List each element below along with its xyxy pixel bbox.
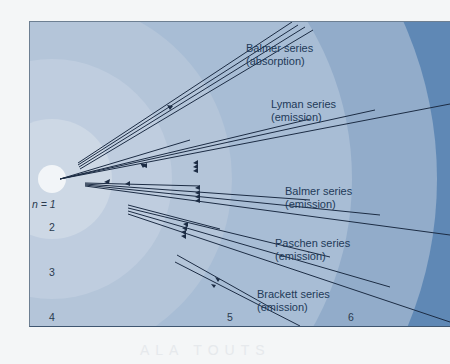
watermark: ALA TOUTS [140, 342, 271, 358]
level-label-6: 6 [348, 311, 354, 323]
series-name: Lyman series [271, 98, 336, 111]
series-type: (emission) [257, 301, 330, 314]
series-name: Paschen series [275, 237, 350, 250]
label-paschen-emission: Paschen series (emission) [275, 237, 350, 263]
series-name: Balmer series [285, 185, 352, 198]
series-name: Brackett series [257, 288, 330, 301]
series-type: (emission) [275, 250, 350, 263]
level-label-4: 4 [49, 311, 55, 323]
label-brackett-emission: Brackett series (emission) [257, 288, 330, 314]
label-balmer-emission: Balmer series (emission) [285, 185, 352, 211]
series-type: (emission) [285, 198, 352, 211]
series-name: Balmer series [246, 42, 313, 55]
series-type: (emission) [271, 111, 336, 124]
series-type: (absorption) [246, 55, 313, 68]
level-label-2: 2 [49, 221, 55, 233]
level-label-5: 5 [227, 311, 233, 323]
level-label-1: n = 1 [32, 198, 56, 210]
label-balmer-absorption: Balmer series (absorption) [246, 42, 313, 68]
level-label-3: 3 [49, 266, 55, 278]
energy-rings-and-transitions [30, 22, 450, 326]
label-lyman-emission: Lyman series (emission) [271, 98, 336, 124]
energy-level-diagram: Balmer series (absorption) Lyman series … [29, 21, 450, 327]
